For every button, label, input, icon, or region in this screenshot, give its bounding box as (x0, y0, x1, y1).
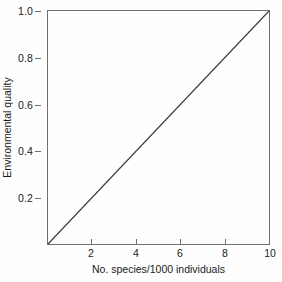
y-tick-label-0-2: 0.2 (18, 193, 33, 204)
x-axis-title: No. species/1000 individuals (47, 263, 270, 275)
y-tick-label-1-0: 1.0 (18, 6, 33, 17)
y-tick-label-0-6: 0.6 (18, 100, 33, 111)
y-tick-label-0-4: 0.4 (18, 146, 33, 157)
y-tick-mark-0-8 (35, 58, 41, 59)
data-line-svg (48, 11, 269, 244)
x-tick-label-6: 6 (177, 248, 183, 259)
data-line-series-0 (48, 11, 269, 244)
y-tick-label-0-8: 0.8 (18, 53, 33, 64)
y-axis: 1.0 0.8 0.6 0.4 0.2 Environmental qualit… (0, 0, 47, 282)
y-axis-title: Environmental quality (0, 10, 14, 245)
x-tick-label-8: 8 (222, 248, 228, 259)
y-tick-mark-0-6 (35, 105, 41, 106)
x-tick-label-2: 2 (88, 248, 94, 259)
x-tick-label-4: 4 (133, 248, 139, 259)
y-tick-mark-1-0 (35, 11, 41, 12)
x-tick-label-10: 10 (264, 248, 276, 259)
plot-area (47, 10, 270, 245)
chart-figure: 1.0 0.8 0.6 0.4 0.2 Environmental qualit… (0, 0, 282, 282)
y-tick-mark-0-2 (35, 198, 41, 199)
y-tick-mark-0-4 (35, 151, 41, 152)
